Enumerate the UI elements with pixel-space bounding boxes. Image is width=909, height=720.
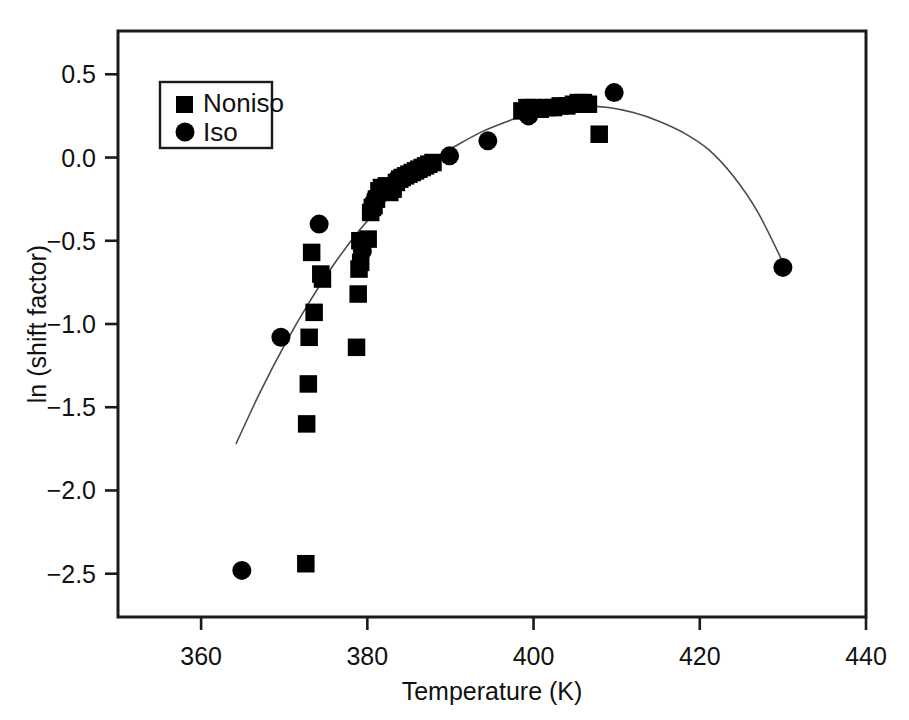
plot-background — [0, 0, 909, 720]
legend-label-iso: Iso — [203, 117, 238, 147]
data-point-noniso — [300, 329, 318, 347]
data-point-iso — [353, 241, 372, 260]
y-tick-label--0.5: −0.5 — [47, 227, 96, 255]
data-point-noniso — [424, 154, 442, 172]
data-point-noniso — [348, 339, 366, 357]
y-tick-label--2: −2.0 — [47, 476, 96, 504]
data-point-iso — [605, 83, 624, 102]
y-axis-title: ln (shift factor) — [23, 245, 51, 403]
data-point-iso — [310, 215, 329, 234]
x-tick-label-440: 440 — [845, 642, 887, 670]
legend: Noniso Iso — [160, 82, 284, 148]
y-tick-label--1.5: −1.5 — [47, 393, 96, 421]
x-tick-label-400: 400 — [513, 642, 555, 670]
data-point-iso — [519, 106, 538, 125]
data-point-iso — [232, 561, 251, 580]
data-point-noniso — [580, 96, 598, 114]
data-point-noniso — [305, 304, 323, 322]
data-point-noniso — [297, 555, 315, 573]
data-point-noniso — [303, 244, 321, 262]
data-point-noniso — [349, 285, 367, 303]
data-point-iso — [366, 188, 385, 207]
figure-container: 360380400420440 0.50.0−0.5−1.0−1.5−2.0−2… — [0, 0, 909, 720]
y-tick-label-0.5: 0.5 — [61, 60, 96, 88]
y-tick-label--1: −1.0 — [47, 310, 96, 338]
data-point-iso — [440, 146, 459, 165]
data-point-iso — [271, 328, 290, 347]
x-axis-title: Temperature (K) — [402, 677, 583, 705]
y-tick-label-0: 0.0 — [61, 144, 96, 172]
legend-marker-circle-iso — [176, 123, 195, 142]
data-point-iso — [478, 131, 497, 150]
legend-label-noniso: Noniso — [203, 88, 284, 118]
x-tick-label-360: 360 — [180, 642, 222, 670]
data-point-iso — [388, 170, 407, 189]
data-point-iso — [408, 161, 427, 180]
y-tick-label--2.5: −2.5 — [47, 560, 96, 588]
data-point-noniso — [314, 270, 332, 288]
data-point-noniso — [590, 125, 608, 143]
scatter-plot: 360380400420440 0.50.0−0.5−1.0−1.5−2.0−2… — [0, 0, 909, 720]
data-point-iso — [773, 258, 792, 277]
legend-marker-square-noniso — [176, 96, 193, 113]
x-tick-label-420: 420 — [679, 642, 721, 670]
data-point-noniso — [298, 415, 316, 433]
data-point-noniso — [300, 375, 318, 393]
x-tick-label-380: 380 — [346, 642, 388, 670]
